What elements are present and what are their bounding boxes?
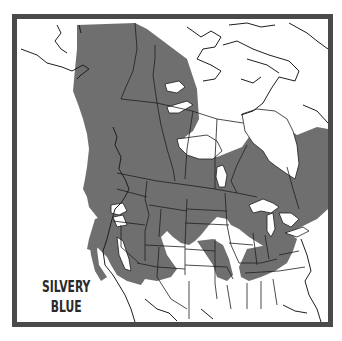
map-frame: SILVERY BLUE [12, 14, 333, 327]
species-name-line2: BLUE [41, 297, 91, 317]
species-label: SILVERY BLUE [41, 277, 91, 317]
species-name-line1: SILVERY [41, 277, 91, 297]
